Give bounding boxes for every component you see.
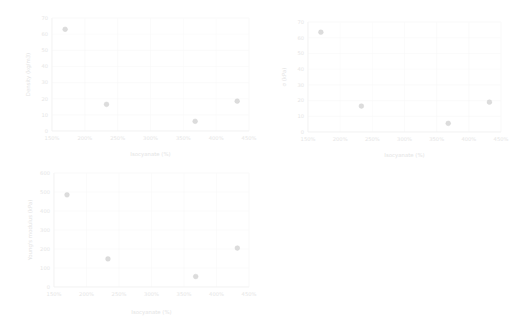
chart-panel-youngs-modulus: 0100200300400500600150%200%250%300%350%4… bbox=[12, 163, 257, 321]
y-tick-label: 500 bbox=[40, 189, 50, 195]
x-tick-label: 200% bbox=[333, 136, 348, 142]
x-tick-label: 450% bbox=[242, 135, 257, 141]
y-axis-title: Density (kg/m3) bbox=[25, 53, 32, 96]
y-axis-tick-labels: 0100200300400500600 bbox=[40, 170, 50, 290]
y-tick-label: 30 bbox=[41, 79, 48, 85]
x-axis-tick-labels: 150%200%250%300%350%400%450% bbox=[301, 136, 509, 142]
data-point-marker bbox=[65, 192, 70, 197]
x-tick-label: 350% bbox=[177, 291, 192, 297]
y-axis-tick-labels: 010203040506070 bbox=[41, 15, 48, 134]
data-point-marker bbox=[104, 102, 109, 107]
data-points bbox=[318, 30, 491, 126]
scatter-plot-youngs-modulus-vs-isocyanate: 0100200300400500600150%200%250%300%350%4… bbox=[12, 163, 257, 321]
scatter-plot-sigma-vs-isocyanate: 010203040506070150%200%250%300%350%400%4… bbox=[272, 12, 509, 164]
x-tick-label: 200% bbox=[79, 291, 94, 297]
y-tick-label: 10 bbox=[297, 113, 304, 119]
data-point-marker bbox=[318, 30, 323, 35]
y-tick-label: 40 bbox=[297, 66, 304, 72]
x-tick-label: 400% bbox=[209, 135, 224, 141]
y-tick-label: 0 bbox=[301, 129, 304, 135]
x-axis-title: Isocyanate (%) bbox=[384, 152, 424, 159]
x-tick-label: 400% bbox=[209, 291, 224, 297]
y-tick-label: 50 bbox=[41, 47, 48, 53]
y-tick-label: 70 bbox=[297, 19, 304, 25]
x-tick-label: 300% bbox=[397, 136, 412, 142]
y-tick-label: 70 bbox=[41, 15, 48, 21]
data-point-marker bbox=[193, 274, 198, 279]
y-tick-label: 20 bbox=[41, 96, 48, 102]
y-tick-label: 600 bbox=[40, 170, 50, 176]
data-point-marker bbox=[446, 121, 451, 126]
y-tick-label: 0 bbox=[47, 284, 50, 290]
y-tick-label: 60 bbox=[297, 35, 304, 41]
data-point-marker bbox=[193, 119, 198, 124]
x-tick-label: 350% bbox=[429, 136, 444, 142]
y-tick-label: 400 bbox=[40, 208, 50, 214]
gridlines bbox=[52, 18, 249, 131]
data-point-marker bbox=[235, 99, 240, 104]
y-tick-label: 100 bbox=[40, 265, 50, 271]
y-tick-label: 20 bbox=[297, 97, 304, 103]
x-tick-label: 350% bbox=[176, 135, 191, 141]
data-point-marker bbox=[235, 246, 240, 251]
x-axis-tick-labels: 150%200%250%300%350%400%450% bbox=[47, 291, 257, 297]
x-tick-label: 150% bbox=[301, 136, 316, 142]
data-point-marker bbox=[63, 27, 68, 32]
data-points bbox=[65, 192, 240, 279]
x-tick-label: 200% bbox=[77, 135, 92, 141]
y-tick-label: 0 bbox=[45, 128, 48, 134]
x-tick-label: 250% bbox=[112, 291, 127, 297]
data-points bbox=[63, 27, 240, 124]
y-tick-label: 200 bbox=[40, 246, 50, 252]
x-tick-label: 400% bbox=[461, 136, 476, 142]
y-axis-title: Young's modulus (kPa) bbox=[27, 200, 34, 262]
x-tick-label: 250% bbox=[365, 136, 380, 142]
data-point-marker bbox=[359, 104, 364, 109]
x-tick-label: 300% bbox=[143, 135, 158, 141]
gridlines bbox=[308, 22, 501, 132]
data-point-marker bbox=[106, 256, 111, 261]
chart-panel-density: 010203040506070150%200%250%300%350%400%4… bbox=[12, 8, 257, 163]
y-tick-label: 10 bbox=[41, 112, 48, 118]
y-tick-label: 50 bbox=[297, 50, 304, 56]
x-tick-label: 150% bbox=[45, 135, 60, 141]
x-tick-label: 450% bbox=[494, 136, 509, 142]
chart-panel-sigma: 010203040506070150%200%250%300%350%400%4… bbox=[272, 12, 509, 164]
y-tick-label: 300 bbox=[40, 227, 50, 233]
scatter-plot-density-vs-isocyanate: 010203040506070150%200%250%300%350%400%4… bbox=[12, 8, 257, 163]
gridlines bbox=[54, 173, 249, 287]
y-axis-title: σ (kPa) bbox=[281, 68, 287, 87]
x-axis-title: Isocyanate (%) bbox=[131, 309, 171, 316]
x-tick-label: 300% bbox=[144, 291, 159, 297]
x-tick-label: 450% bbox=[242, 291, 257, 297]
data-point-marker bbox=[487, 100, 492, 105]
x-tick-label: 150% bbox=[47, 291, 62, 297]
y-axis-tick-labels: 010203040506070 bbox=[297, 19, 304, 135]
x-tick-label: 250% bbox=[110, 135, 125, 141]
x-axis-title: Isocyanate (%) bbox=[130, 151, 170, 158]
x-axis-tick-labels: 150%200%250%300%350%400%450% bbox=[45, 135, 257, 141]
y-tick-label: 40 bbox=[41, 63, 48, 69]
y-tick-label: 60 bbox=[41, 31, 48, 37]
y-tick-label: 30 bbox=[297, 82, 304, 88]
